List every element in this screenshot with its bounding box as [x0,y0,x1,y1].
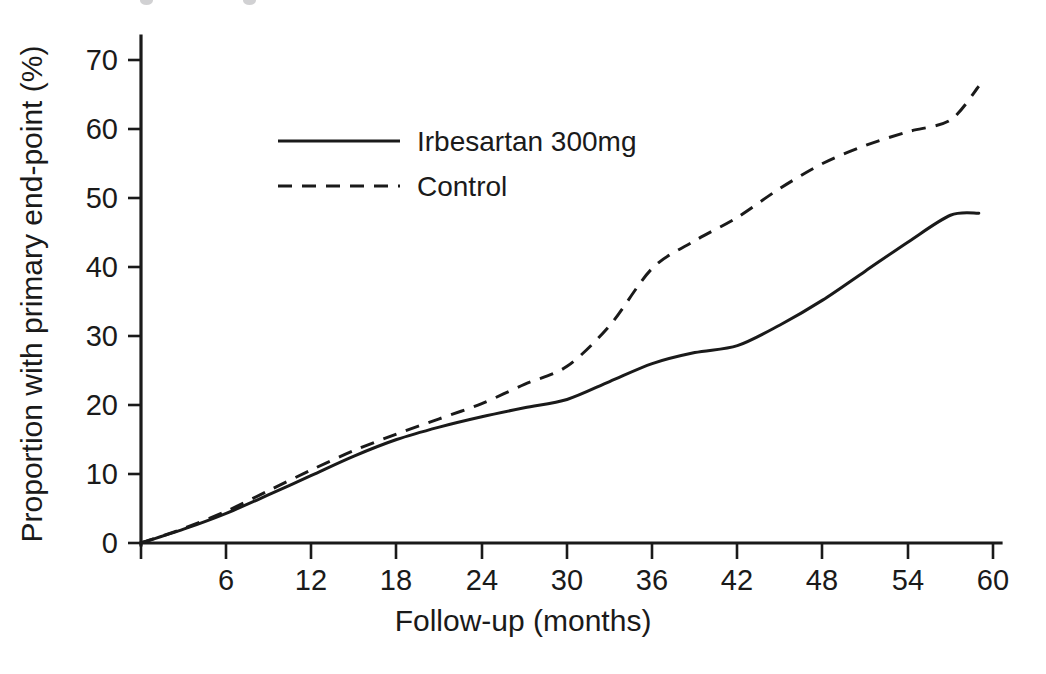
x-tick-label-54: 54 [892,566,924,595]
x-tick-label-6: 6 [218,566,234,595]
x-tick-label-30: 30 [551,566,583,595]
legend-label-control: Control [417,171,507,203]
chart-canvas [0,0,1046,674]
x-axis-title: Follow-up (months) [0,604,1046,638]
x-tick-label-48: 48 [806,566,838,595]
y-tick-label-10: 10 [60,460,118,489]
y-tick-marks [128,60,141,543]
y-tick-label-20: 20 [60,391,118,420]
y-axis-title: Proportion with primary end-point (%) [15,14,49,574]
x-tick-label-42: 42 [721,566,753,595]
axes-group [141,36,1001,545]
x-tick-label-12: 12 [295,566,327,595]
series-line-irbesartan [141,213,979,543]
x-tick-label-36: 36 [636,566,668,595]
legend [278,141,400,186]
legend-label-irbesartan: Irbesartan 300mg [417,126,636,158]
y-tick-label-30: 30 [60,322,118,351]
y-tick-label-50: 50 [60,184,118,213]
figure-root: 70 60 50 40 30 20 10 0 6 12 18 24 30 36 … [0,0,1046,674]
y-tick-label-70: 70 [60,46,118,75]
y-tick-label-40: 40 [60,253,118,282]
x-tick-marks [141,543,993,559]
x-tick-label-18: 18 [380,566,412,595]
x-tick-label-60: 60 [977,566,1009,595]
y-tick-label-0: 0 [60,529,118,558]
y-tick-label-60: 60 [60,115,118,144]
x-tick-label-24: 24 [466,566,498,595]
